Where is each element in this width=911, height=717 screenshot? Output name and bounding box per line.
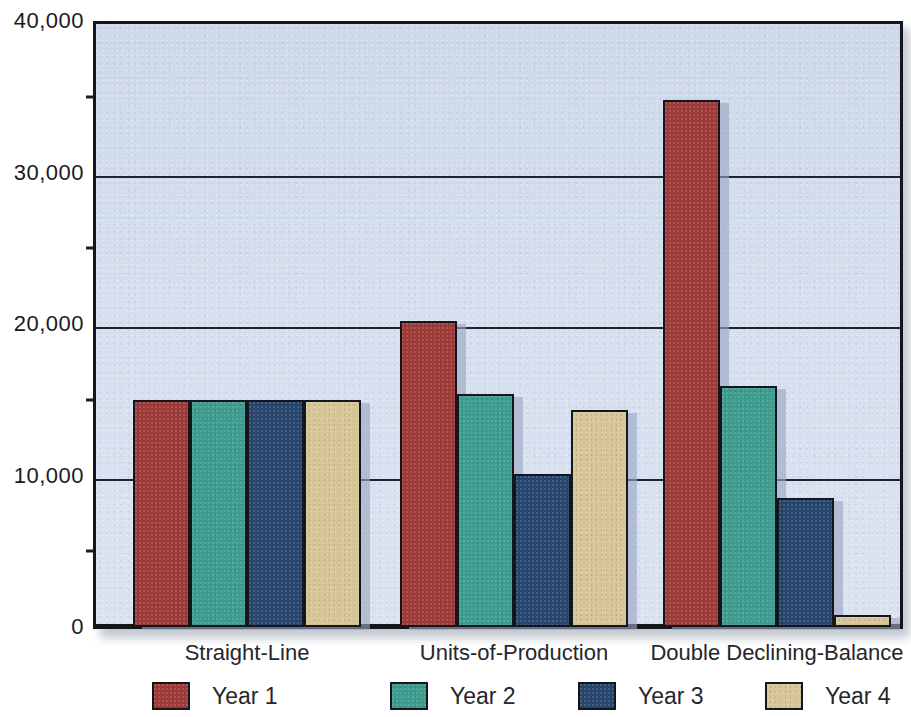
bar-column [133,21,190,627]
bar[interactable] [514,474,571,627]
legend-label: Year 1 [212,683,278,710]
bar[interactable] [247,400,304,627]
x-axis-category-label: Double Declining-Balance [650,640,903,666]
bar-column [457,21,514,627]
bar-column [834,21,891,627]
bar[interactable] [777,498,834,627]
bar[interactable] [663,100,720,627]
x-axis-category-label: Units-of-Production [420,640,608,666]
bar-group [133,21,361,627]
bar[interactable] [834,615,891,627]
bar-column [720,21,777,627]
bar-column [777,21,834,627]
bar-column [663,21,720,627]
bar[interactable] [133,400,190,627]
y-axis-tick-label: 40,000 [14,8,84,34]
bar[interactable] [571,410,628,627]
y-axis-tick-label: 30,000 [14,160,84,186]
legend-item[interactable]: Year 4 [765,682,891,710]
bars-layer [93,21,903,627]
bar[interactable] [457,394,514,627]
bar-column [514,21,571,627]
legend-label: Year 3 [638,683,704,710]
y-axis-tick-label: 0 [71,614,84,640]
legend-item[interactable]: Year 3 [578,682,704,710]
bar-column [304,21,361,627]
x-axis-labels: Straight-LineUnits-of-ProductionDouble D… [0,640,911,674]
legend-item[interactable]: Year 2 [390,682,516,710]
chart-legend: Year 1Year 2Year 3Year 4 [0,682,911,717]
y-axis-tick-label: 20,000 [14,311,84,337]
bar-group [400,21,628,627]
legend-item[interactable]: Year 1 [152,682,278,710]
bar[interactable] [190,400,247,627]
bar[interactable] [400,321,457,627]
legend-label: Year 4 [825,683,891,710]
bar[interactable] [720,386,777,627]
bar-chart: 010,00020,00030,00040,000 Straight-LineU… [0,0,911,717]
legend-label: Year 2 [450,683,516,710]
y-axis-tick-label: 10,000 [14,463,84,489]
x-axis-category-label: Straight-Line [185,640,310,666]
legend-color-swatch [390,682,428,710]
legend-color-swatch [152,682,190,710]
bar-group [663,21,891,627]
legend-color-swatch [765,682,803,710]
y-axis: 010,00020,00030,00040,000 [0,0,92,650]
bar-column [190,21,247,627]
bar-column [247,21,304,627]
legend-color-swatch [578,682,616,710]
bar[interactable] [304,400,361,627]
bar-column [400,21,457,627]
bar-column [571,21,628,627]
